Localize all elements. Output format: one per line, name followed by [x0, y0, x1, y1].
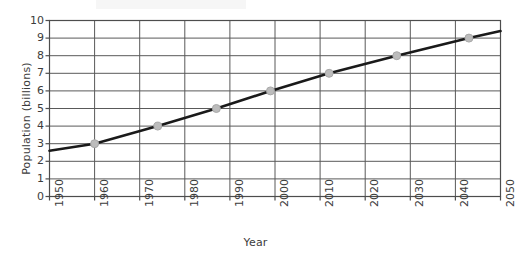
x-tick-label: 2010 — [324, 179, 335, 207]
x-tick-label: 1990 — [234, 179, 245, 207]
x-tick-label: 2030 — [414, 179, 425, 207]
x-tick-label: 1970 — [144, 179, 155, 207]
x-tick-label: 2040 — [459, 179, 470, 207]
x-tick-label: 2050 — [505, 179, 516, 207]
x-tick-label: 1950 — [54, 179, 65, 207]
x-tick-label: 2020 — [369, 179, 380, 207]
x-tick-label: 1980 — [189, 179, 200, 207]
x-tick-label: 2000 — [279, 179, 290, 207]
x-tick-label: 1960 — [99, 179, 110, 207]
